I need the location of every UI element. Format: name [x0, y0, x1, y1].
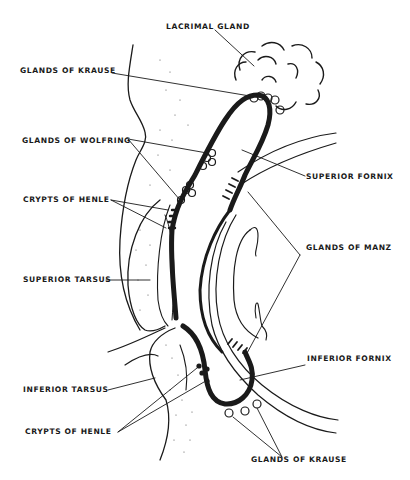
label-glands-of-wolfring: GLANDS OF WOLFRING	[22, 137, 131, 145]
label-superior-tarsus: SUPERIOR TARSUS	[23, 276, 111, 284]
upper-palpebral-conjunctiva	[171, 95, 269, 318]
label-lacrimal-gland: LACRIMAL GLAND	[166, 23, 250, 31]
label-glands-of-krause-lower: GLANDS OF KRAUSE	[251, 456, 347, 464]
label-crypts-of-henle-lower: CRYPTS OF HENLE	[25, 428, 112, 436]
glands-of-manz-lower	[228, 339, 247, 353]
inferior-tarsus-inner	[180, 345, 187, 390]
leader-lines	[106, 30, 305, 457]
anatomy-diagram: LACRIMAL GLAND GLANDS OF KRAUSE GLANDS O…	[0, 0, 410, 480]
label-superior-fornix: SUPERIOR FORNIX	[306, 173, 394, 181]
globe-outer-arc	[238, 133, 336, 172]
label-glands-of-krause-upper: GLANDS OF KRAUSE	[20, 67, 116, 75]
upper-eyelid-skin	[120, 45, 146, 330]
label-inferior-fornix: INFERIOR FORNIX	[307, 355, 392, 363]
bulbar-conjunctiva	[200, 210, 230, 352]
cornea-outline	[234, 230, 258, 338]
label-glands-of-manz: GLANDS OF MANZ	[306, 244, 392, 252]
label-crypts-of-henle-upper: CRYPTS OF HENLE	[23, 196, 110, 204]
lower-eyelid-skin	[150, 328, 175, 460]
label-inferior-tarsus: INFERIOR TARSUS	[23, 386, 109, 394]
